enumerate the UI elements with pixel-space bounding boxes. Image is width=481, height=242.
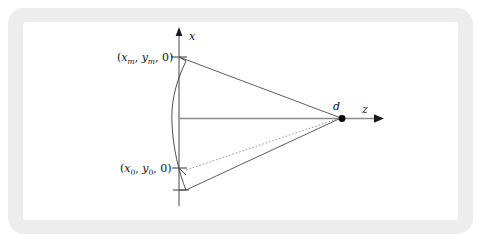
ray-diagram-svg: x z d (xm, ym, 0) (x0, y0, 0) xyxy=(0,0,481,242)
z-axis-label: z xyxy=(361,103,368,116)
lower-label-comma1: , xyxy=(135,162,142,175)
upper-label-close: ) xyxy=(169,51,173,64)
convergence-point-dot xyxy=(339,115,346,122)
x-axis-label: x xyxy=(189,30,196,43)
lower-label-comma2: , xyxy=(153,162,160,175)
upper-label-sub1: m xyxy=(128,57,135,66)
x-axis-arrowhead xyxy=(176,27,183,36)
upper-ray xyxy=(179,57,341,118)
figure-page: x z d (xm, ym, 0) (x0, y0, 0) xyxy=(0,0,481,242)
upper-point-label: (xm, ym, 0) xyxy=(117,51,173,66)
lower-point-label: (x0, y0, 0) xyxy=(120,162,172,177)
upper-label-sub2: m xyxy=(148,57,155,66)
convergence-point-label: d xyxy=(333,100,340,113)
upper-label-comma2: , xyxy=(155,51,162,64)
upper-label-comma1: , xyxy=(135,51,142,64)
lower-label-close: ) xyxy=(167,162,171,175)
lower-ray xyxy=(186,118,341,190)
lower-label-var3: 0 xyxy=(160,162,167,175)
z-axis-arrowhead xyxy=(374,114,384,122)
upper-label-var3: 0 xyxy=(162,51,169,64)
chief-ray-dotted xyxy=(186,118,340,170)
